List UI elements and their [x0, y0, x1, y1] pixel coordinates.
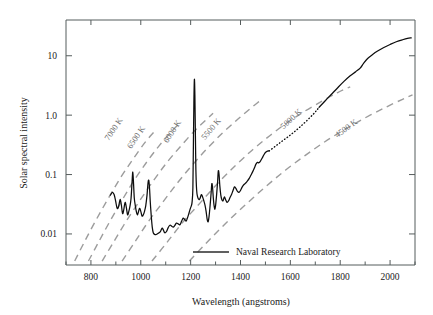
y-tick-label-10: 10	[48, 51, 58, 61]
y-tick-label-0.01: 0.01	[40, 229, 57, 239]
x-tick-label-2000: 2000	[381, 272, 400, 282]
legend-label-naval-research-laboratory: Naval Research Laboratory	[236, 247, 341, 257]
y-tick-label-1.0: 1.0	[45, 111, 57, 121]
x-tick-label-800: 800	[84, 272, 99, 282]
x-axis-title: Wavelength (angstroms)	[192, 296, 290, 308]
x-tick-label-1000: 1000	[131, 272, 150, 282]
x-tick-label-1200: 1200	[181, 272, 200, 282]
x-tick-label-1600: 1600	[281, 272, 300, 282]
solar-spectrum-figure: 7000 K6500 K6000 K5500 K5000 K4500 K 800…	[0, 0, 433, 315]
chart-canvas: 7000 K6500 K6000 K5500 K5000 K4500 K 800…	[0, 0, 433, 315]
figure-background	[0, 0, 433, 315]
y-axis-title: Solar spectral intensity	[18, 97, 29, 189]
y-tick-label-0.1: 0.1	[45, 170, 57, 180]
x-tick-label-1400: 1400	[231, 272, 250, 282]
x-tick-label-1800: 1800	[331, 272, 350, 282]
